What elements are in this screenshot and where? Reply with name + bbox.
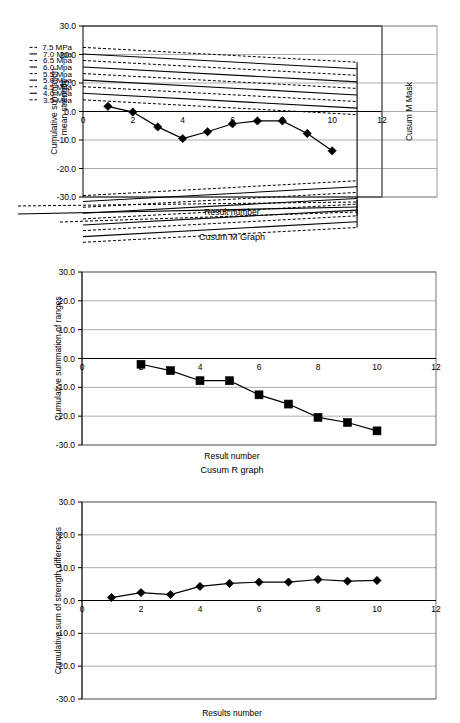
cusum-m-yaxis-label-line1: Cumulative summation [49,68,59,155]
cusum-strength-diff-xtick: 10 [372,604,382,614]
cusum-r-title: Cusum R graph [200,465,263,475]
cusum-strength-diff-data-point [284,578,292,586]
cusum-r-data-point [167,367,175,375]
cusum-strength-diff-ytick: 0.0 [63,596,75,606]
cusum-strength-diff-xaxis-label: Results number [202,708,262,718]
cusum-r-ytick: 0.0 [63,354,75,364]
cusum-strength-diff-svg: -30.0-20.0-10.00.010.020.030.0024681012 … [0,483,460,723]
cusum-m-data-point [154,123,162,131]
cusum-strength-diff-xtick: 6 [257,604,262,614]
cusum-strength-diff-axes-frame [82,502,436,699]
cusum-r-xaxis-label: Result number [204,451,259,461]
cusum-r-data-point [314,413,322,421]
cusum-strength-diff-data-point [343,577,351,585]
cusum-m-xtick: 0 [81,115,86,125]
cusum-r-svg: -30.0-20.0-10.00.010.020.030.0024681012 … [0,245,460,483]
cusum-strength-diff-xtick: 0 [80,604,85,614]
cusum-r-data-point [196,377,204,385]
cusum-strength-diff-data-point [373,576,381,584]
cusum-r-xtick: 0 [80,362,85,372]
cusum-r-ytick: 30.0 [58,267,75,277]
cusum-m-data-point [303,129,311,137]
cusum-m-xaxis-label: Result number [204,207,259,217]
cusum-m-title: Cusum M Graph [199,232,265,242]
cusum-m-data-point [203,128,211,136]
cusum-r-axes-frame [82,272,436,445]
cusum-r-xtick: 8 [316,362,321,372]
cusum-r-data-point [226,377,234,385]
cusum-strength-diff-data-point [196,582,204,590]
cusum-strength-diff-data-point [314,575,322,583]
cusum-r-xtick: 10 [372,362,382,372]
cusum-r-xtick: 12 [431,362,441,372]
cusum-m-ytick: 30.0 [59,21,76,31]
cusum-r-data-point [255,391,263,399]
cusum-strength-diff-xtick: 2 [139,604,144,614]
cusum-strength-diff-xtick: 12 [431,604,441,614]
cusum-m-graph: -30.0-20.0-10.00.010.020.030.0024681012 … [0,0,460,245]
cusum-r-data-point [137,360,145,368]
cusum-strength-diff-data-point [225,579,233,587]
cusum-strength-diff-yaxis-label: Cumulative sum of strength differences [53,527,63,674]
cusum-m-xtick: 10 [327,115,337,125]
cusum-r-ytick: -30.0 [56,440,76,450]
cusum-r-xtick: 6 [257,362,262,372]
cusum-strength-diff-ytick: -30.0 [56,694,76,704]
cusum-m-yaxis-label-line2: – mean strength [59,81,69,143]
cusum-r-data-point [373,427,381,435]
cusum-m-series [104,102,337,155]
cusum-m-data-point [104,102,112,110]
cusum-m-data-point [178,134,186,142]
cusum-m-ytick: -20.0 [57,164,77,174]
cusum-strength-diff-data-point [166,590,174,598]
cusum-strength-diff-xtick: 4 [198,604,203,614]
cusum-strength-diff-data-point [137,588,145,596]
cusum-m-mask-side-label: Cusum M Mask [404,81,414,141]
cusum-m-data-point [328,147,336,155]
cusum-m-ytick: -30.0 [57,192,77,202]
cusum-m-xtick: 12 [377,115,387,125]
cusum-strength-diff-graph: -30.0-20.0-10.00.010.020.030.0024681012 … [0,483,460,723]
cusum-m-xtick: 4 [180,115,185,125]
cusum-strength-diff-ytick: 30.0 [58,497,75,507]
cusum-r-data-point [285,400,293,408]
cusum-m-mask-tails [18,200,357,222]
cusum-r-data-point [344,419,352,427]
cusum-strength-diff-xtick: 8 [316,604,321,614]
cusum-m-svg: -30.0-20.0-10.00.010.020.030.0024681012 … [0,0,460,245]
cusum-m-data-point [253,117,261,125]
cusum-strength-diff-series [107,575,381,601]
cusum-r-xtick: 4 [198,362,203,372]
cusum-r-yaxis-label: Cumulative summation of ranges [53,296,63,420]
cusum-r-graph: -30.0-20.0-10.00.010.020.030.0024681012 … [0,245,460,483]
cusum-strength-diff-data-point [255,578,263,586]
